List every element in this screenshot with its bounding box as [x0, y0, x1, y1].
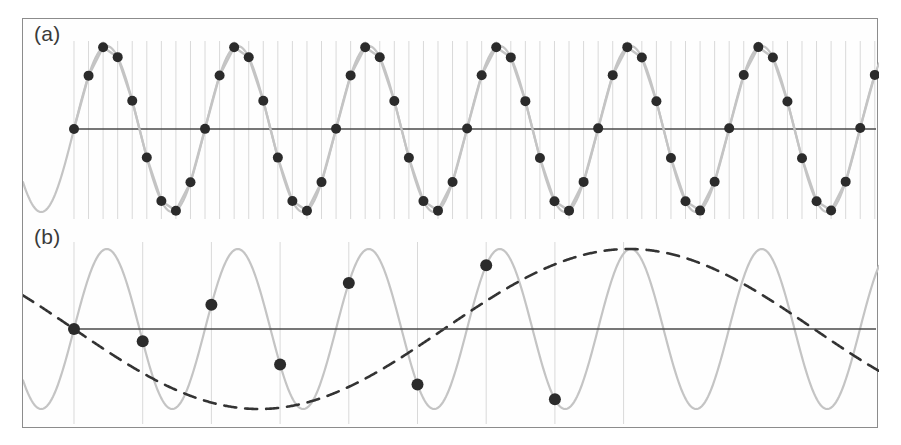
sample-dot	[200, 124, 210, 134]
sample-dot	[651, 96, 661, 106]
sample-dot	[258, 96, 268, 106]
sample-dot	[535, 153, 545, 163]
sample-dot	[215, 71, 225, 81]
sample-dot	[564, 206, 574, 216]
sample-dot	[412, 379, 424, 391]
sample-dot	[480, 259, 492, 271]
sample-dot	[98, 42, 108, 52]
sample-dot	[593, 123, 603, 133]
sample-dot	[142, 152, 152, 162]
sample-dot	[622, 42, 632, 52]
sample-dot	[404, 153, 414, 163]
sample-points	[68, 259, 561, 405]
sample-dot	[710, 177, 720, 187]
sample-dot	[137, 335, 149, 347]
sample-dot	[855, 123, 865, 133]
panel-b-label: (b)	[34, 225, 61, 249]
sample-dot	[797, 153, 807, 163]
sample-dot	[826, 206, 836, 216]
figure-frame	[22, 18, 878, 428]
sample-dot	[724, 123, 734, 133]
sample-dot	[244, 52, 254, 62]
sample-dot	[127, 96, 137, 106]
aliasing-figure: (a) (b)	[0, 0, 901, 445]
sample-dot	[287, 196, 297, 206]
sample-dot	[579, 177, 589, 187]
sample-dot	[753, 42, 763, 52]
sample-dot	[841, 177, 851, 187]
sample-dot	[477, 70, 487, 80]
sample-dot	[870, 70, 879, 80]
sample-dot	[68, 323, 80, 335]
sample-dot	[302, 206, 312, 216]
sample-dot	[739, 70, 749, 80]
sample-dot	[491, 42, 501, 52]
panel-a-label: (a)	[34, 22, 61, 46]
sample-dot	[273, 153, 283, 163]
sample-dot	[389, 96, 399, 106]
sample-dot	[520, 96, 530, 106]
sample-dot	[608, 70, 618, 80]
sample-dot	[156, 196, 166, 206]
sample-dot	[113, 52, 123, 62]
panel-a-plot	[23, 19, 879, 224]
sample-dot	[681, 196, 691, 206]
sample-dot	[637, 52, 647, 62]
sample-dot	[229, 42, 239, 52]
panel-b-plot	[23, 224, 879, 429]
sample-dot	[695, 206, 705, 216]
sample-dot	[549, 196, 559, 206]
sample-dot	[84, 71, 94, 81]
sample-dot	[666, 153, 676, 163]
sample-dot	[185, 177, 195, 187]
sample-dot	[360, 42, 370, 52]
gridlines	[74, 41, 875, 219]
sample-dot	[205, 299, 217, 311]
sample-dot	[506, 52, 516, 62]
sample-dot	[448, 177, 458, 187]
panel-b	[23, 224, 877, 429]
sample-dot	[549, 393, 561, 405]
sample-dot	[274, 359, 286, 371]
sample-dot	[433, 206, 443, 216]
sample-dot	[331, 124, 341, 134]
sample-dot	[812, 196, 822, 206]
sample-dot	[317, 177, 327, 187]
sample-dot	[171, 206, 181, 216]
sample-dot	[375, 52, 385, 62]
sample-dot	[69, 124, 79, 134]
sample-dot	[768, 53, 778, 63]
gridlines	[74, 242, 624, 424]
sample-dot	[462, 124, 472, 134]
sample-dot	[782, 96, 792, 106]
sample-dot	[346, 70, 356, 80]
sample-dot	[343, 277, 355, 289]
sample-dot	[418, 196, 428, 206]
panel-a	[23, 19, 877, 224]
